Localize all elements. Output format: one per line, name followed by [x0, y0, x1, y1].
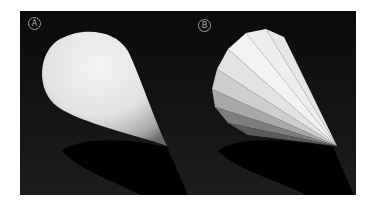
smooth-cone-illustration — [20, 11, 188, 195]
figure-panel: A B — [20, 11, 356, 195]
faceted-cone-illustration — [188, 11, 356, 195]
label-b-badge: B — [198, 19, 211, 32]
label-a-badge: A — [28, 17, 41, 30]
panel-b: B — [188, 11, 356, 195]
panel-a: A — [20, 11, 188, 195]
